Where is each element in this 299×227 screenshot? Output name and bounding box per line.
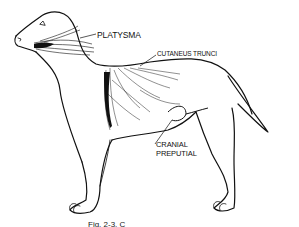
- dog-anatomy-drawing: [0, 0, 299, 227]
- belly-outline: [112, 112, 196, 140]
- label-cutaneus-trunci: CUTANEUS TRUNCI: [157, 51, 217, 58]
- ear-icon: [40, 21, 45, 25]
- platysma-leader: [80, 34, 96, 38]
- nose-icon: [18, 38, 21, 41]
- label-cranial-preputial: CRANIAL PREPUTIAL: [156, 141, 197, 158]
- label-platysma: PLATYSMA: [97, 31, 141, 40]
- cutaneus-leader: [140, 55, 156, 66]
- front-leg-outline: [70, 140, 112, 213]
- platysma-muscle: [34, 26, 94, 55]
- chest-outline: [36, 52, 82, 162]
- hind-leg-outline: [196, 108, 235, 211]
- cutaneus-shading: [104, 72, 112, 128]
- figure-caption: Fig. 2-3. C: [88, 220, 125, 227]
- cutaneus-trunci-muscle: [105, 68, 180, 130]
- head-outline: [16, 12, 76, 36]
- platysma-shading: [34, 43, 54, 49]
- label-cranial-line2: PREPUTIAL: [156, 150, 197, 159]
